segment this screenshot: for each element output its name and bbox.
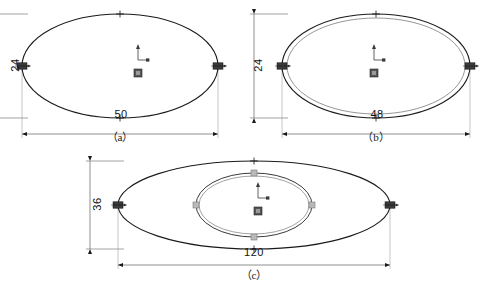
dimension-arrow-icon [118,263,123,267]
dimension-arrow-icon [282,132,287,136]
grip-square-icon[interactable] [309,202,315,208]
ucs-y-arrow-icon [256,182,260,187]
dimension-arrow-icon [213,132,218,136]
ellipse-inner[interactable] [287,18,465,114]
dimension-arrow-icon [252,9,256,14]
center-point-core [372,71,376,75]
ellipse-inner[interactable] [199,176,309,234]
caption-figure-a: （a） [100,128,140,144]
ellipse-inner[interactable] [196,173,312,237]
center-point-core [136,71,140,75]
ucs-x-arrow-icon [266,196,269,199]
dim-a-height: 24 [9,56,21,74]
caption-figure-b: （b） [356,128,396,144]
dimension-arrow-icon [88,249,92,254]
ellipse-outer[interactable] [282,14,470,118]
grip-square-icon[interactable] [193,202,199,208]
ucs-y-arrow-icon [372,44,376,49]
dimension-arrow-icon [22,132,27,136]
dim-c-width: 120 [236,246,272,258]
center-point-core [256,209,260,213]
dim-b-height: 24 [252,56,264,74]
ellipse-outer[interactable] [22,14,218,118]
dim-c-height: 36 [91,195,103,213]
caption-figure-c: （c） [234,266,274,282]
ucs-x-arrow-icon [382,58,385,61]
dimension-arrow-icon [88,156,92,161]
ucs-y-arrow-icon [136,44,140,49]
dimension-arrow-icon [385,263,390,267]
grip-square-icon[interactable] [251,170,257,176]
dim-b-width: 48 [362,108,392,120]
dimension-arrow-icon [465,132,470,136]
drawing-canvas: 24 50 （a） 24 48 （b） 36 120 （c） [0,0,497,302]
ucs-x-arrow-icon [146,58,149,61]
dim-a-width: 50 [106,108,136,120]
grip-square-icon[interactable] [251,234,257,240]
dimension-arrow-icon [252,118,256,123]
